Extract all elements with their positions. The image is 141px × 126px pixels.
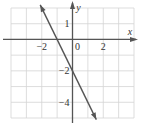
x-tick-label: 0 (75, 41, 80, 52)
x-tick-label: 2 (101, 41, 106, 52)
y-axis-label: y (75, 2, 81, 13)
line-arrow-end-icon (91, 112, 96, 119)
x-axis-label: x (127, 26, 133, 37)
y-axis-arrow-icon (70, 1, 75, 9)
y-tick-label: −4 (59, 97, 70, 108)
y-tick-label: −2 (59, 65, 70, 76)
axes (3, 1, 138, 123)
x-tick-label: −2 (36, 41, 47, 52)
coordinate-plane: −2021−2−4xy (0, 0, 141, 126)
line-arrow-start-icon (40, 5, 45, 12)
y-tick-label: 1 (65, 18, 70, 29)
